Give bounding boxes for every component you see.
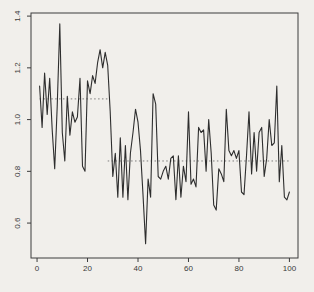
x-tick-label: 0 [35,264,40,273]
x-tick-label: 20 [83,264,92,273]
series-line [40,24,290,244]
chart-svg: 0204060801000.60.81.01.21.4 [0,0,314,292]
y-tick-label: 1.4 [13,10,22,22]
x-tick-label: 40 [134,264,143,273]
x-tick-label: 100 [283,264,297,273]
plot-box [31,13,298,258]
x-tick-label: 60 [184,264,193,273]
y-tick-label: 0.8 [13,165,22,177]
x-tick-label: 80 [234,264,243,273]
y-tick-label: 1.0 [13,113,22,125]
y-tick-label: 1.2 [13,62,22,74]
y-tick-label: 0.6 [13,217,22,229]
changepoint-line-chart-figure: 0204060801000.60.81.01.21.4 [0,0,314,292]
